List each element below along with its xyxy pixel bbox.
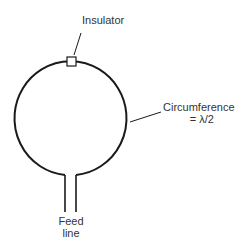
- circumference-label-line1: Circumference: [163, 101, 235, 113]
- insulator-box: [67, 57, 76, 66]
- insulator-label: Insulator: [82, 14, 124, 26]
- insulator-leader-line: [74, 33, 81, 55]
- circumference-leader-line: [130, 112, 161, 122]
- feed-line-label-line2: line: [58, 227, 84, 239]
- antenna-loop: [15, 61, 127, 175]
- feed-line-label-line1: Feed: [58, 215, 84, 227]
- circumference-label: Circumference = λ/2: [163, 101, 235, 125]
- circumference-label-line2: = λ/2: [163, 113, 235, 125]
- feed-line-label: Feed line: [58, 215, 84, 239]
